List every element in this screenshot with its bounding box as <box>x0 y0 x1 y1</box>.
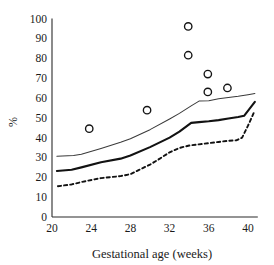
scatter-points-group <box>86 23 232 133</box>
x-axis-tick-labels: 202428323640 <box>46 222 254 234</box>
y-axis-tick-label: 50 <box>36 112 48 124</box>
chart-plot-area: 0102030405060708090100 % 202428323640 Ge… <box>0 0 274 265</box>
data-point-marker <box>86 125 93 132</box>
y-axis-tick-label: 30 <box>36 151 48 163</box>
data-point-marker <box>204 70 211 77</box>
x-axis-group: 202428323640 Gestational age (weeks) <box>46 217 258 261</box>
y-axis-tick-label: 90 <box>36 32 48 44</box>
y-axis-tick-label: 80 <box>36 52 48 64</box>
x-axis-tick-label: 36 <box>203 222 215 234</box>
data-point-marker <box>204 88 211 95</box>
y-axis-tick-label: 40 <box>36 132 48 144</box>
series-lower-reference-line <box>58 113 254 187</box>
y-axis-tick-labels: 0102030405060708090100 <box>30 13 48 224</box>
y-axis-title: % <box>6 117 20 127</box>
x-axis-tick-label: 32 <box>164 222 176 234</box>
y-axis-tick-label: 70 <box>36 72 48 84</box>
data-point-marker <box>185 52 192 59</box>
x-axis-tick-label: 40 <box>242 222 254 234</box>
y-axis-tick-label: 10 <box>36 191 48 203</box>
y-axis-tick-label: 20 <box>36 171 48 183</box>
chart-container: 0102030405060708090100 % 202428323640 Ge… <box>0 0 274 265</box>
x-axis-tick-label: 24 <box>85 222 97 234</box>
data-point-marker <box>185 23 192 30</box>
x-axis-tick-label: 20 <box>46 222 58 234</box>
y-axis-tick-label: 100 <box>30 13 48 25</box>
data-point-marker <box>224 84 231 91</box>
x-axis-tick-label: 28 <box>125 222 137 234</box>
y-axis-group: 0102030405060708090100 % <box>6 13 52 224</box>
series-upper-reference-line <box>57 94 255 157</box>
y-axis-tick-label: 60 <box>36 92 48 104</box>
data-point-marker <box>143 107 150 114</box>
x-axis-title: Gestational age (weeks) <box>92 247 212 261</box>
series-group <box>57 94 255 187</box>
